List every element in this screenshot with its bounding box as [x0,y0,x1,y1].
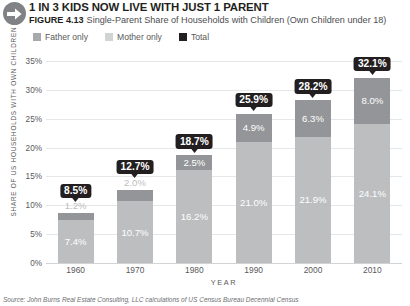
legend-item-mother-only: Mother only [105,32,162,42]
bar-label-father-only: 6.3% [302,113,324,124]
x-axis-tick-label: 2010 [363,265,382,275]
bar-label-mother-only: 21.9% [299,194,326,205]
legend-swatch-total [179,33,187,41]
total-callout-label: 32.1% [358,58,387,69]
total-callout-label: 18.7% [180,136,209,147]
x-axis-tick-label: 1980 [185,265,204,275]
gridline [46,119,402,120]
total-callout-2000: 28.2% [295,79,332,94]
bar-label-mother-only: 21.0% [240,197,267,208]
bar-segment-father-only[interactable]: 6.3% [295,100,331,136]
x-axis-title: YEAR [46,278,402,287]
bar-segment-father-only[interactable] [58,213,94,220]
callout-tail [309,93,317,98]
x-axis-tick-label: 1960 [66,265,85,275]
bar-label-father-only: 2.5% [183,157,205,168]
bar-segment-mother-only[interactable]: 7.4% [58,220,94,263]
bar-group-1980[interactable]: 16.2%2.5% [176,61,212,263]
y-axis-tick-label: 25% [26,114,42,123]
bar-label-mother-only: 16.2% [181,211,208,222]
total-callout-1960: 8.5% [60,184,91,199]
total-callout-label: 8.5% [64,185,87,196]
y-axis-tick-label: 30% [26,85,42,94]
bar-label-mother-only: 7.4% [65,236,87,247]
chart-legend: Father only Mother only Total [33,31,226,43]
legend-swatch-mother-only [105,33,113,41]
y-axis-title: SHARE OF US HOUSEHOLDS WITH OWN CHILDREN [10,67,17,217]
bar-label-father-only: 4.9% [243,122,265,133]
bar-group-1990[interactable]: 21.0%4.9% [236,61,272,263]
callout-tail [190,148,198,153]
bar-segment-mother-only[interactable]: 21.9% [295,137,331,263]
bar-segment-mother-only[interactable]: 24.1% [354,124,390,263]
y-axis-tick-label: 20% [26,143,42,152]
y-axis-tick-label: 5% [30,230,42,239]
gridline [46,205,402,206]
y-axis-tick-label: 0% [30,259,42,268]
gridline [46,176,402,177]
gridline [46,148,402,149]
bar-label-mother-only: 10.7% [121,227,148,238]
legend-label-mother-only: Mother only [117,32,162,42]
total-callout-1970: 12.7% [117,160,154,175]
bar-segment-mother-only[interactable]: 16.2% [176,170,212,263]
gridline [46,234,402,235]
right-arrow-icon [3,2,26,25]
gridline [46,90,402,91]
total-callout-1990: 25.9% [235,93,272,108]
bar-segment-father-only[interactable]: 4.9% [236,114,272,142]
bar-label-father-only: 2.0% [124,177,146,188]
callout-tail [72,197,80,202]
total-callout-label: 12.7% [121,161,150,172]
bar-segment-father-only[interactable]: 2.5% [176,155,212,169]
bar-segment-mother-only[interactable]: 10.7% [117,201,153,263]
total-callout-2010: 32.1% [354,57,391,72]
bar-group-2010[interactable]: 24.1%8.0% [354,61,390,263]
callout-tail [131,173,139,178]
total-callout-1980: 18.7% [176,134,213,149]
y-axis-tick-label: 15% [26,172,42,181]
source-note: Source: John Burns Real Estate Consultin… [3,296,407,303]
bar-label-mother-only: 24.1% [359,188,386,199]
plot-area: 0%5%10%15%20%25%30%35%7.4%1.2%8.5%10.7%2… [46,61,402,263]
y-axis-tick-label: 10% [26,201,42,210]
bar-segment-father-only[interactable] [117,190,153,202]
stacked-bar-chart: SHARE OF US HOUSEHOLDS WITH OWN CHILDREN… [0,50,410,290]
legend-label-total: Total [191,32,209,42]
legend-label-father-only: Father only [45,32,88,42]
legend-item-father-only: Father only [33,32,88,42]
total-callout-label: 28.2% [299,81,328,92]
x-axis-tick-label: 1990 [244,265,263,275]
figure-caption: FIGURE 4.13Single-Parent Share of Househ… [29,15,407,25]
bar-segment-father-only[interactable]: 8.0% [354,78,390,124]
legend-item-total: Total [179,32,209,42]
figure-number: FIGURE 4.13 [29,15,84,25]
gridline [46,61,402,62]
gridline [46,263,402,264]
legend-swatch-father-only [33,33,41,41]
callout-tail [250,106,258,111]
bar-group-1960[interactable]: 7.4%1.2% [58,61,94,263]
callout-tail [368,70,376,75]
x-axis-tick-label: 2000 [304,265,323,275]
bar-label-father-only: 8.0% [361,95,383,106]
bar-segment-mother-only[interactable]: 21.0% [236,142,272,263]
figure-caption-text: Single-Parent Share of Households with C… [87,15,387,25]
x-axis-ticks: 196019701980199020002010 [46,265,402,279]
y-axis-tick-label: 35% [26,57,42,66]
page-title: 1 IN 3 KIDS NOW LIVE WITH JUST 1 PARENT [29,1,407,13]
x-axis-tick-label: 1970 [126,265,145,275]
total-callout-label: 25.9% [239,94,268,105]
figure-header: 1 IN 3 KIDS NOW LIVE WITH JUST 1 PARENT … [0,0,410,50]
